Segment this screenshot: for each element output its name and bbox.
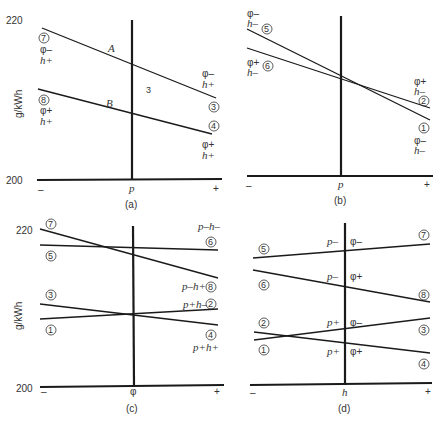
svg-text:7: 7 <box>41 33 46 43</box>
svg-text:p+: p+ <box>326 316 340 328</box>
x-tick-minus: – <box>246 180 252 191</box>
svg-text:5: 5 <box>261 244 266 254</box>
x-tick-plus: + <box>424 179 430 190</box>
svg-text:p–h+: p–h+ <box>181 280 206 292</box>
svg-text:6: 6 <box>261 280 266 290</box>
figure-canvas: 220 200 g/kWh A B 3 7 φ– h+ 8 φ+ h+ φ– h… <box>0 0 446 425</box>
line-2-4 <box>254 332 430 353</box>
panel-caption: (c) <box>126 403 138 414</box>
svg-text:h+: h+ <box>40 54 53 66</box>
svg-text:h–: h– <box>247 17 259 29</box>
line-b-label: B <box>106 97 113 109</box>
x-tick-minus: – <box>41 386 47 397</box>
line-5-7 <box>253 244 430 258</box>
x-tick-plus: + <box>214 386 220 397</box>
svg-text:1: 1 <box>421 123 426 133</box>
svg-text:6: 6 <box>208 237 213 247</box>
svg-text:8: 8 <box>208 282 213 292</box>
line-b <box>38 89 212 134</box>
x-axis-var: h <box>342 386 348 398</box>
svg-text:8: 8 <box>421 290 426 300</box>
svg-text:p+: p+ <box>326 345 340 357</box>
svg-text:4: 4 <box>421 359 426 369</box>
svg-text:3: 3 <box>421 325 426 335</box>
y-axis-label: g/kWh <box>13 302 24 330</box>
svg-text:φ–: φ– <box>350 236 362 247</box>
x-tick-minus: – <box>38 184 44 195</box>
svg-text:p+h–: p+h– <box>182 298 207 310</box>
svg-text:1: 1 <box>261 345 266 355</box>
line-1-3 <box>254 318 430 340</box>
x-axis-var: φ <box>130 386 137 397</box>
line-a-label: A <box>107 42 115 54</box>
svg-text:φ–: φ– <box>350 317 362 328</box>
panel-a: 220 200 g/kWh A B 3 7 φ– h+ 8 φ+ h+ φ– h… <box>6 15 222 210</box>
svg-text:4: 4 <box>211 121 216 131</box>
y-axis <box>133 226 134 386</box>
line-5-1 <box>247 29 430 120</box>
line-6-8 <box>253 270 430 302</box>
panel-d: 5 6 2 1 7 8 3 4 p– φ– p– φ+ p+ φ– p+ φ+ … <box>250 223 432 414</box>
svg-text:5: 5 <box>264 24 269 34</box>
line-a <box>42 28 216 98</box>
svg-text:2: 2 <box>261 318 266 328</box>
svg-text:3: 3 <box>211 102 216 112</box>
y-tick-200: 200 <box>16 383 33 394</box>
x-tick-minus: – <box>250 387 256 398</box>
svg-text:3: 3 <box>48 290 53 300</box>
x-tick-plus: + <box>213 183 219 194</box>
x-axis-var: p <box>337 178 344 190</box>
line-7-8 <box>40 229 218 278</box>
x-axis <box>37 179 222 180</box>
svg-text:6: 6 <box>265 61 270 71</box>
svg-text:h+: h+ <box>202 78 215 90</box>
panel-caption: (b) <box>334 195 346 206</box>
svg-text:h–: h– <box>247 66 259 78</box>
x-tick-plus: + <box>425 386 431 397</box>
svg-text:h+: h+ <box>40 115 53 127</box>
svg-text:p–h–: p–h– <box>197 220 221 232</box>
y-tick-200: 200 <box>6 175 23 186</box>
svg-text:p–: p– <box>326 235 339 247</box>
svg-text:5: 5 <box>48 251 53 261</box>
svg-text:p+h+: p+h+ <box>192 341 219 353</box>
line-5-6 <box>40 245 218 250</box>
panel-caption: (d) <box>338 403 350 414</box>
svg-text:p–: p– <box>326 270 339 282</box>
svg-text:7: 7 <box>421 230 426 240</box>
panel-caption: (a) <box>125 199 137 210</box>
region-label: 3 <box>146 85 151 95</box>
y-axis-label: g/kWh <box>13 90 24 118</box>
svg-text:2: 2 <box>421 96 426 106</box>
svg-text:φ+: φ+ <box>350 346 362 357</box>
y-tick-220: 220 <box>6 15 23 26</box>
y-tick-220: 220 <box>16 225 33 236</box>
panel-c: 220 200 g/kWh 7 5 3 1 p–h– 6 p–h+ 8 p+h–… <box>13 219 224 414</box>
x-axis-var: p <box>128 182 135 194</box>
x-axis <box>250 383 432 385</box>
svg-text:φ+: φ+ <box>350 271 362 282</box>
svg-text:7: 7 <box>48 219 53 229</box>
svg-text:h+: h+ <box>202 149 215 161</box>
svg-text:1: 1 <box>48 325 53 335</box>
line-1-2 <box>40 309 218 319</box>
svg-text:4: 4 <box>208 330 213 340</box>
panel-b: φ– h– 5 φ+ h– 6 φ+ h– 2 1 φ– h– – p + (b… <box>246 8 433 206</box>
svg-text:8: 8 <box>41 95 46 105</box>
svg-text:2: 2 <box>208 299 213 309</box>
svg-text:h–: h– <box>414 144 426 156</box>
line-6-2 <box>247 48 430 108</box>
